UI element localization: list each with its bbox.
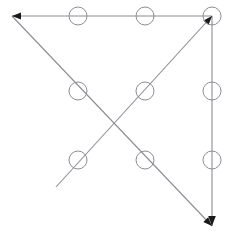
stroke-diagonal-down-right [12,16,212,226]
arrowhead-top-left-icon [12,13,21,20]
stroke-diagonal-up-right [56,16,212,187]
stroke-group [12,16,212,226]
dot-bottom-center [136,151,154,169]
nine-dot-puzzle-diagram [0,0,234,244]
dot-bottom-left [69,151,87,169]
figure-canvas [0,0,234,244]
dot-middle-center [136,82,154,100]
